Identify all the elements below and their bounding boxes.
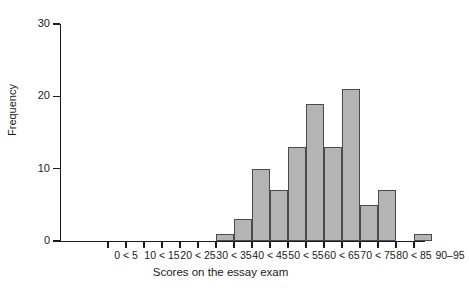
x-axis-tick xyxy=(359,242,360,248)
histogram-bar xyxy=(288,147,306,241)
histogram-bar xyxy=(306,104,324,241)
x-axis-tick xyxy=(269,242,270,248)
x-axis-tick xyxy=(125,242,126,248)
x-axis-tick xyxy=(341,242,342,248)
x-axis-tick xyxy=(377,242,378,248)
histogram-bar xyxy=(324,147,342,241)
y-axis-tick xyxy=(53,23,60,24)
x-axis-tick xyxy=(215,242,216,248)
x-axis-tick xyxy=(161,242,162,248)
x-axis-tick xyxy=(107,242,108,248)
histogram-bar xyxy=(234,219,252,241)
x-axis-line xyxy=(60,241,425,242)
y-axis-tick xyxy=(53,168,60,169)
histogram-bar xyxy=(252,169,270,241)
y-axis-title: Frequency xyxy=(6,60,18,160)
x-axis-title: Scores on the essay exam xyxy=(0,266,441,278)
y-axis-tick xyxy=(53,96,60,97)
x-axis-tick xyxy=(413,242,414,248)
x-axis-tick xyxy=(395,242,396,248)
x-axis-tick xyxy=(323,242,324,248)
x-axis-tick xyxy=(197,242,198,248)
histogram-bar xyxy=(216,234,234,241)
x-axis-tick-label: 90–95 xyxy=(420,250,469,262)
histogram-bars xyxy=(60,24,424,241)
histogram-bar xyxy=(342,89,360,241)
x-axis-tick xyxy=(143,242,144,248)
y-axis-tick-label: 10 xyxy=(4,163,50,174)
y-axis-tick-label: 0 xyxy=(4,235,50,246)
y-axis-tick xyxy=(53,240,60,241)
x-axis-tick xyxy=(179,242,180,248)
x-axis-tick xyxy=(287,242,288,248)
histogram-bar xyxy=(378,190,396,241)
y-axis-tick-label: 30 xyxy=(4,18,50,29)
x-axis-tick xyxy=(251,242,252,248)
histogram-bar xyxy=(270,190,288,241)
x-axis-tick xyxy=(305,242,306,248)
histogram-bar xyxy=(360,205,378,241)
histogram-bar xyxy=(414,234,432,241)
x-axis-tick xyxy=(233,242,234,248)
